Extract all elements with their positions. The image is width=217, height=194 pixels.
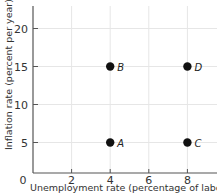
y-tick-label: 20 (14, 23, 28, 36)
x-tick-label: 0 (20, 174, 27, 187)
grid-lines (33, 6, 217, 173)
data-point-c (183, 138, 191, 146)
axes (33, 6, 217, 173)
scatter-chart: 02468 5101520 ABCD Unemployment rate (pe… (0, 0, 217, 194)
point-label-a: A (116, 138, 124, 149)
y-tick-label: 15 (14, 61, 28, 74)
x-axis-label: Unemployment rate (percentage of labor f… (30, 182, 217, 193)
point-label-b: B (117, 62, 124, 73)
data-point-d (183, 62, 191, 70)
point-label-c: C (194, 138, 201, 149)
y-axis-label: Inflation rate (percent per year) (3, 0, 14, 150)
data-point-b (106, 62, 114, 70)
point-label-d: D (194, 62, 202, 73)
y-axis-ticks: 5101520 (14, 23, 38, 150)
y-tick-label: 10 (14, 99, 28, 112)
y-tick-label: 5 (21, 137, 28, 150)
data-point-a (106, 138, 114, 146)
